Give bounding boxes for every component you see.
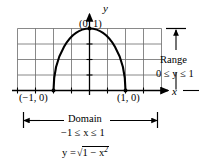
equation-label: y =√1 − x2 xyxy=(62,145,109,158)
point-left xyxy=(52,89,56,93)
x-axis-label: x xyxy=(172,86,177,97)
point-label-right: (1, 0) xyxy=(117,93,140,104)
range-label: Range xyxy=(160,55,187,66)
radicand: 1 − x2 xyxy=(82,146,109,158)
y-axis-label: y xyxy=(103,3,108,14)
domain-label: Domain xyxy=(68,114,102,125)
graph-canvas xyxy=(0,0,217,166)
point-label-top: (0, 1) xyxy=(79,19,102,30)
point-label-left: (−1, 0) xyxy=(19,93,48,104)
radicand-exponent: 2 xyxy=(104,144,108,153)
equation-lhs: y = xyxy=(62,147,76,158)
figure-semicircle-graph: y x (0, 1) (−1, 0) (1, 0) Range 0 ≤ y ≤ … xyxy=(0,0,217,166)
radicand-expression: 1 − x xyxy=(83,147,105,158)
range-inequality: 0 ≤ y ≤ 1 xyxy=(156,69,194,80)
radical-sign: √1 − x2 xyxy=(76,145,109,158)
domain-inequality: −1 ≤ x ≤ 1 xyxy=(61,128,105,139)
